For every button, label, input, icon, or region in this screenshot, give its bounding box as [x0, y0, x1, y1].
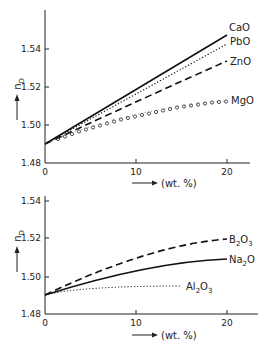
bottom-ytick-154: 1.54: [21, 196, 41, 206]
series-mgo-line: [45, 101, 227, 144]
label-cao: CaO: [229, 22, 250, 33]
series-mgo-markers: [56, 100, 227, 141]
label-b2o3: B2O3: [229, 234, 253, 248]
bottom-x-arrow-icon: [132, 333, 158, 338]
top-x-label: (wt. %): [161, 178, 197, 189]
label-al2o3: Al2O3: [186, 281, 212, 295]
bottom-chart: 1.54 1.52 1.50 1.48 0 10 20 (wt. %) nD B…: [12, 196, 258, 341]
top-chart: 1.54 1.52 1.50 1.48 0 10 20 (wt. %) nD: [12, 10, 254, 189]
top-y-arrow-icon: [15, 94, 20, 120]
series-pbo-line: [45, 44, 227, 144]
top-ytick-154: 1.54: [21, 44, 41, 54]
bottom-xtick-0: 0: [42, 318, 48, 328]
top-xtick-20: 20: [221, 167, 233, 177]
label-zno: ZnO: [230, 56, 251, 67]
series-zno-line: [45, 61, 227, 144]
label-pbo: PbO: [230, 36, 250, 47]
label-na2o: Na2O: [229, 254, 255, 268]
bottom-xtick-10: 10: [130, 318, 142, 328]
bottom-x-label: (wt. %): [161, 330, 197, 341]
top-x-arrow-icon: [132, 181, 158, 186]
bottom-xtick-20: 20: [221, 318, 233, 328]
label-mgo: MgO: [231, 95, 254, 106]
series-al2o3-line: [45, 286, 182, 295]
top-xtick-0: 0: [42, 167, 48, 177]
bottom-ytick-150: 1.50: [21, 272, 41, 282]
bottom-y-arrow-icon: [15, 246, 20, 272]
refractive-index-charts: 1.54 1.52 1.50 1.48 0 10 20 (wt. %) nD: [0, 0, 272, 354]
top-xtick-10: 10: [130, 167, 142, 177]
series-cao-line: [45, 35, 227, 144]
bottom-ytick-148: 1.48: [21, 309, 41, 319]
top-ytick-148: 1.48: [21, 158, 41, 168]
top-ytick-150: 1.50: [21, 120, 41, 130]
